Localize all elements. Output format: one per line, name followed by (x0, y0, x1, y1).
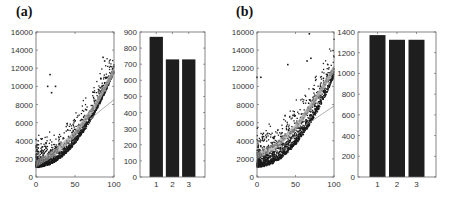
bar-1 (150, 37, 163, 177)
x-tick-label: 3 (187, 180, 192, 189)
bar-2 (389, 40, 405, 177)
outlier-point (104, 60, 106, 62)
outlier-point (310, 57, 312, 59)
x-tick-label: 100 (327, 180, 341, 189)
y-tick-label: 12000 (11, 64, 34, 73)
x-tick-label: 2 (395, 180, 400, 189)
outlier-point (55, 86, 57, 88)
scatter-chart-1: 0200040006000800010000120001400016000050… (11, 28, 121, 189)
x-tick-label: 2 (170, 180, 175, 189)
bar-1 (370, 35, 386, 177)
y-tick-label: 10000 (11, 82, 34, 91)
y-tick-label: 200 (124, 141, 138, 150)
y-tick-label: 800 (124, 44, 138, 53)
y-tick-label: 16000 (11, 28, 34, 37)
outlier-point (306, 60, 308, 62)
x-tick-label: 0 (255, 180, 260, 189)
y-tick-label: 10000 (232, 82, 255, 91)
x-tick-label: 100 (107, 180, 121, 189)
y-tick-label: 8000 (236, 101, 254, 110)
y-tick-label: 700 (124, 60, 138, 69)
x-tick-label: 1 (375, 180, 380, 189)
bar-chart-4: 0200400600800100012001400123 (337, 28, 436, 189)
y-tick-label: 8000 (15, 101, 33, 110)
y-tick-label: 600 (342, 111, 356, 120)
x-tick-label: 3 (414, 180, 419, 189)
x-tick-label: 50 (291, 180, 300, 189)
y-tick-label: 300 (124, 125, 138, 134)
y-tick-label: 4000 (236, 137, 254, 146)
y-tick-label: 1200 (337, 49, 355, 58)
y-tick-label: 500 (124, 92, 138, 101)
y-tick-label: 400 (342, 132, 356, 141)
outlier-point (102, 57, 104, 59)
y-tick-label: 12000 (232, 64, 255, 73)
y-tick-label: 6000 (236, 119, 254, 128)
scatter-points (35, 58, 114, 168)
bar-2 (166, 59, 179, 177)
outlier-point (260, 77, 262, 79)
outlier-point (51, 92, 53, 94)
x-tick-label: 0 (34, 180, 39, 189)
bar-3 (182, 59, 195, 177)
y-tick-label: 14000 (11, 46, 34, 55)
y-tick-label: 0 (133, 173, 138, 182)
y-tick-label: 4000 (15, 137, 33, 146)
y-tick-label: 800 (342, 90, 356, 99)
y-tick-label: 600 (124, 76, 138, 85)
y-tick-label: 14000 (232, 46, 255, 55)
y-tick-label: 16000 (232, 28, 255, 37)
y-tick-label: 1000 (337, 69, 355, 78)
y-tick-label: 0 (351, 173, 356, 182)
y-tick-label: 1400 (337, 28, 355, 37)
x-tick-label: 50 (71, 180, 80, 189)
y-tick-label: 200 (342, 152, 356, 161)
outlier-point (287, 64, 289, 66)
y-tick-label: 2000 (15, 155, 33, 164)
bar-chart-2: 0100200300400500600700800900123 (124, 28, 205, 189)
bar-3 (409, 40, 425, 177)
outlier-point (309, 33, 311, 35)
x-tick-label: 1 (154, 180, 159, 189)
y-tick-label: 2000 (236, 155, 254, 164)
y-tick-label: 400 (124, 109, 138, 118)
scatter-chart-3: 0200040006000800010000120001400016000050… (232, 28, 341, 189)
outlier-point (49, 74, 51, 76)
figure-canvas: 0200040006000800010000120001400016000050… (0, 0, 450, 198)
y-tick-label: 100 (124, 157, 138, 166)
y-tick-label: 900 (124, 28, 138, 37)
outlier-point (47, 86, 49, 88)
y-tick-label: 6000 (15, 119, 33, 128)
